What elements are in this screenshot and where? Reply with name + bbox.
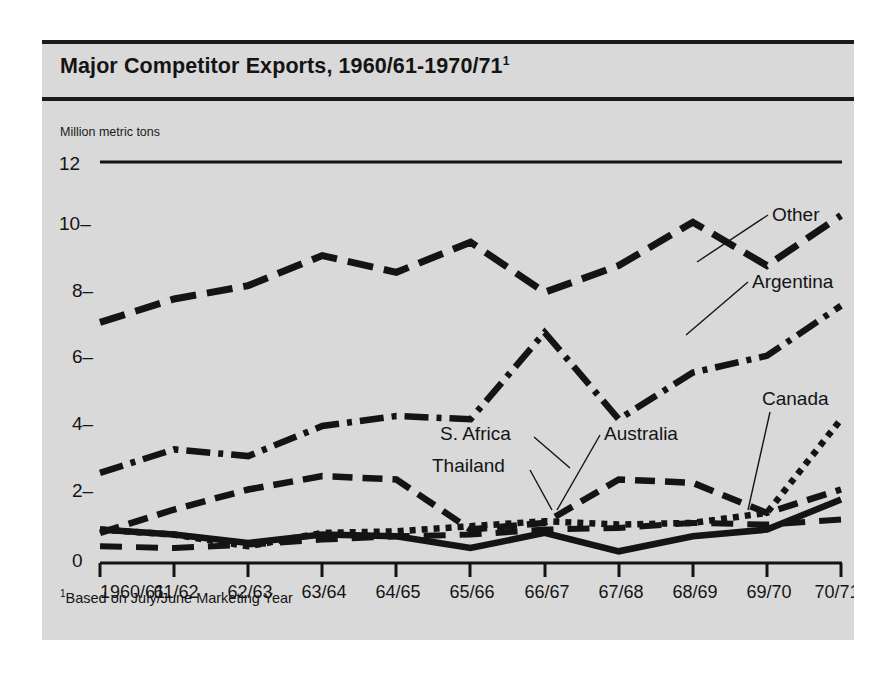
x-tick-label-7: 67/68 <box>598 582 643 602</box>
series-label-s-africa: S. Africa <box>440 423 511 444</box>
series-layer <box>100 216 841 552</box>
leader-line-argentina <box>686 282 748 335</box>
leader-line-australia <box>557 435 600 510</box>
x-tick-label-3: 63/64 <box>301 582 346 602</box>
x-tick-label-9: 69/70 <box>746 582 791 602</box>
x-tick-label-6: 66/67 <box>524 582 569 602</box>
y-tick-label-4: 4– <box>72 413 94 434</box>
y-tick-label-12: 12 <box>59 153 80 174</box>
footnote: 1Based on July/June Marketing Year <box>60 588 293 606</box>
y-tick-label-2: 2– <box>72 480 94 501</box>
series-line-argentina <box>100 306 841 473</box>
plot-area: 12 10– 8– 6– 4– 2– 0 <box>42 40 854 640</box>
x-axis-ticks <box>100 563 841 577</box>
x-tick-label-4: 64/65 <box>375 582 420 602</box>
chart-svg: 12 10– 8– 6– 4– 2– 0 <box>42 40 854 640</box>
series-label-thailand: Thailand <box>432 455 505 476</box>
series-label-argentina: Argentina <box>752 271 834 292</box>
y-tick-label-10: 10– <box>59 213 91 234</box>
x-tick-label-8: 68/69 <box>672 582 717 602</box>
series-label-australia: Australia <box>604 423 678 444</box>
leader-line-other <box>697 215 768 262</box>
x-tick-label-5: 65/66 <box>449 582 494 602</box>
leader-line-thailand <box>530 470 552 510</box>
series-line-other <box>100 216 841 323</box>
y-tick-label-0: 0 <box>72 550 83 571</box>
series-label-other: Other <box>772 204 820 225</box>
leader-line-s-africa <box>534 437 570 468</box>
y-tick-label-6: 6– <box>72 346 94 367</box>
y-tick-label-8: 8– <box>72 280 94 301</box>
footnote-text: Based on July/June Marketing Year <box>66 590 293 606</box>
series-label-canada: Canada <box>762 388 829 409</box>
leader-line-canada <box>748 412 770 510</box>
chart-figure: Major Competitor Exports, 1960/61-1970/7… <box>42 40 854 640</box>
x-tick-label-10: 70/71 <box>814 582 854 602</box>
